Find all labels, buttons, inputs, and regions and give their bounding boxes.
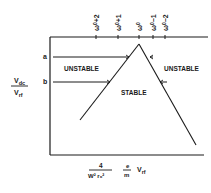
svg-text:Vdc: Vdc [14,77,25,86]
tick-label-w0-plus-2: ω0+2 [92,14,100,31]
marker-b: b [43,78,47,85]
right-boundary-line [139,44,196,145]
marker-a: a [43,53,47,60]
region-right-unstable: UNSTABLE [164,65,200,72]
x-axis-label: 4 W² r₀² e m Vrf [88,162,146,179]
svg-text:4: 4 [99,162,103,169]
svg-text:Vrf: Vrf [14,89,23,98]
top-tick-labels: ω0+2 ω0+1 ω0 ω0−1 ω0−2 [92,14,169,31]
tick-label-w0-minus-1: ω0−1 [149,14,157,31]
svg-text:m: m [124,172,129,178]
tick-label-w0-plus-1: ω0+1 [114,14,122,31]
region-stable: STABLE [121,89,147,96]
stability-diagram: ω0+2 ω0+1 ω0 ω0−1 ω0−2 a b UNSTABLE UNST… [0,0,211,193]
arrow-marks [107,55,163,84]
svg-text:W² r₀²: W² r₀² [88,173,104,179]
tick-label-w0: ω0 [135,22,143,31]
region-left-unstable: UNSTABLE [64,65,100,72]
y-axis-label: Vdc Vrf [11,77,28,98]
svg-text:e: e [126,163,130,169]
tick-label-w0-minus-2: ω0−2 [161,14,169,31]
svg-text:Vrf: Vrf [137,166,146,175]
